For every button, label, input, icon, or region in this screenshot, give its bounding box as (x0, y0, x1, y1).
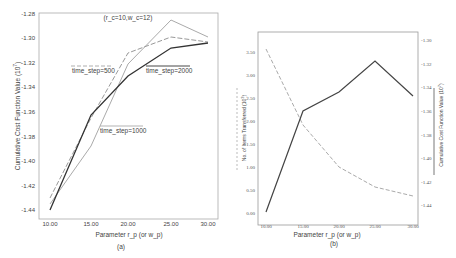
y-tick: -1.44 (421, 203, 432, 208)
chart-a-panel-label: (a) (117, 243, 125, 251)
y-tick: -1.30 (421, 38, 432, 43)
svg-text:Cumulative Cost Function Value: Cumulative Cost Function Value (107) (12, 62, 22, 171)
svg-text:No. of Items Transferred (103): No. of Items Transferred (103) (240, 94, 248, 161)
y-tick: -1.44 (21, 207, 35, 213)
y-tick: 0.50 (246, 188, 255, 193)
chart-a: -1.28 -1.30 -1.32 -1.34 -1.36 -1.38 -1.4… (12, 11, 218, 251)
y-tick: 2.50 (246, 96, 255, 101)
svg-text:Cumulative Cost Function Value: Cumulative Cost Function Value (107) (437, 83, 445, 167)
y-tick: -1.40 (21, 158, 35, 164)
x-tick: 10.00 (260, 224, 272, 229)
chart-b: 0.00 0.50 1.00 1.50 2.00 2.50 3.00 3.50 … (237, 32, 444, 248)
series-time-step-500 (50, 37, 208, 198)
y-tick: 1.00 (246, 165, 255, 170)
legend-time-step-2000: time_step=2000 (146, 66, 193, 75)
svg-text:time_step=2000: time_step=2000 (146, 67, 193, 75)
y-tick: -1.34 (421, 85, 432, 90)
legend-time-step-1000: time_step=1000 (100, 126, 147, 135)
y-tick: 3.00 (246, 73, 255, 78)
legend-time-step-500: time_step=500 (71, 66, 115, 75)
x-tick: 30.00 (407, 224, 419, 229)
svg-text:time_step=500: time_step=500 (72, 67, 115, 75)
chart-b-right-y-axis: -1.30 -1.32 -1.34 -1.36 -1.38 -1.40 -1.4… (421, 38, 432, 208)
chart-b-x-label: Parameter r_p (or w_p) (293, 231, 360, 239)
y-tick: -1.38 (21, 134, 35, 140)
x-tick: 25.00 (163, 221, 179, 227)
series-time-step-1000 (50, 20, 208, 204)
chart-a-y-label: Cumulative Cost Function Value (107) (12, 62, 22, 171)
x-tick: 15.00 (297, 224, 309, 229)
x-tick: 15.00 (83, 221, 99, 227)
y-tick: -1.36 (421, 109, 432, 114)
chart-a-annotation: (r_c=10,w_c=12) (104, 14, 153, 22)
chart-b-panel-label: (b) (330, 240, 338, 248)
y-tick: -1.40 (421, 156, 432, 161)
y-tick: 1.50 (246, 142, 255, 147)
y-tick: -1.32 (421, 62, 432, 67)
chart-b-right-y-label: Cumulative Cost Function Value (107) (437, 83, 445, 167)
series-items-transferred (266, 49, 413, 196)
y-tick: -1.30 (21, 35, 35, 41)
chart-b-plot-area (258, 32, 418, 225)
figure: -1.28 -1.30 -1.32 -1.34 -1.36 -1.38 -1.4… (0, 0, 456, 258)
chart-b-left-y-label: No. of Items Transferred (103) (240, 94, 248, 161)
y-tick: -1.34 (21, 84, 35, 90)
chart-a-plot-area (39, 13, 218, 219)
x-tick: 20.00 (333, 224, 345, 229)
y-tick: -1.32 (21, 60, 35, 66)
chart-a-x-label: Parameter r_p (or w_p) (95, 231, 162, 239)
y-tick: -1.28 (21, 11, 35, 17)
x-tick: 30.00 (200, 221, 216, 227)
x-tick: 25.00 (369, 224, 381, 229)
y-tick: -1.42 (21, 183, 35, 189)
svg-text:time_step=1000: time_step=1000 (100, 127, 147, 135)
chart-a-y-axis: -1.28 -1.30 -1.32 -1.34 -1.36 -1.38 -1.4… (21, 11, 35, 213)
x-tick: 10.00 (42, 221, 58, 227)
y-tick: 3.50 (246, 50, 255, 55)
y-tick: -1.38 (421, 133, 432, 138)
y-tick: 2.00 (246, 119, 255, 124)
y-tick: -1.36 (21, 109, 35, 115)
y-tick: -1.42 (421, 180, 432, 185)
series-cumulative-cost (266, 61, 413, 212)
chart-b-left-y-axis: 0.00 0.50 1.00 1.50 2.00 2.50 3.00 3.50 (246, 50, 255, 216)
y-tick: 0.00 (246, 211, 255, 216)
x-tick: 20.00 (120, 221, 136, 227)
chart-a-x-axis: 10.00 15.00 20.00 25.00 30.00 (42, 221, 216, 227)
